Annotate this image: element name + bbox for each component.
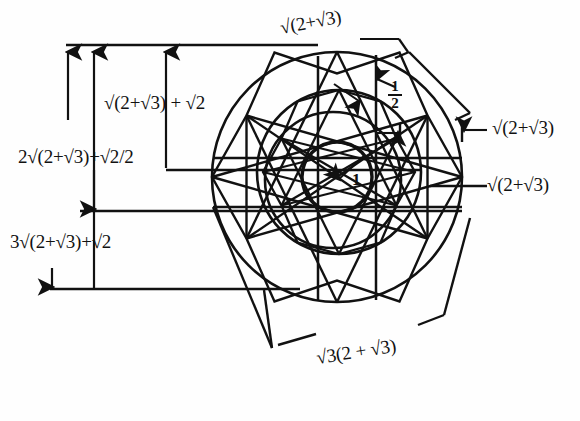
geometry-figure-canvas: √(2+√3) √(2+√3) + √2 2√(2+√3)+√2/2 3√(2+… — [0, 0, 580, 421]
right-upper-dimension — [462, 120, 487, 142]
label-lower-left-radical: 3√(2+√3)+√2 — [10, 232, 111, 251]
top-leader-line — [360, 39, 408, 52]
label-right-upper-radical: √(2+√3) — [492, 118, 554, 137]
label-one-half-fraction: 1 2 — [388, 79, 402, 112]
fraction-denominator: 2 — [388, 96, 402, 111]
label-center-radius-one: 1 — [352, 170, 361, 190]
fraction-numerator: 1 — [388, 79, 402, 94]
label-right-lower-radical: √(2+√3) — [487, 175, 549, 194]
figure-svg — [0, 0, 580, 421]
label-mid-left-radical: 2√(2+√3)+√2/2 — [18, 147, 134, 166]
label-upper-left-radical: √(2+√3) + √2 — [104, 93, 205, 112]
upper-right-diagonal-dimension — [395, 52, 470, 120]
